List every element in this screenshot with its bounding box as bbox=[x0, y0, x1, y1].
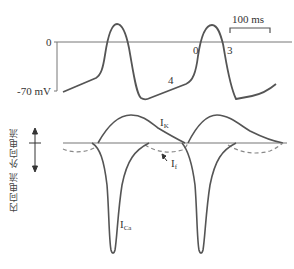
minus-70-mv-label: -70 mV bbox=[17, 86, 51, 97]
if-current-trace bbox=[63, 143, 283, 153]
action-potential-trace bbox=[63, 24, 276, 99]
time-scale-bar bbox=[230, 28, 270, 33]
phase-0-label: 0 bbox=[193, 45, 199, 56]
scale-bar-label: 100 ms bbox=[232, 14, 264, 25]
ica-label: ICa bbox=[120, 219, 131, 234]
if-pointer-arrow bbox=[162, 154, 167, 161]
phase-3-label: 3 bbox=[227, 45, 233, 56]
ik-label: IK bbox=[160, 117, 169, 132]
current-axis-label: 内向电流 外向电流 bbox=[6, 128, 20, 212]
zero-mv-label: 0 bbox=[46, 37, 52, 48]
if-label: If bbox=[171, 158, 177, 173]
diagram-canvas bbox=[0, 0, 294, 269]
ica-current-trace bbox=[92, 143, 236, 253]
pacemaker-action-potential-diagram: 0 -70 mV 100 ms 0 3 4 IK If ICa 内向电流 外向电… bbox=[0, 0, 294, 269]
phase-4-label: 4 bbox=[168, 75, 174, 86]
arrow-down-icon bbox=[33, 166, 38, 172]
current-direction-arrow bbox=[29, 128, 41, 172]
ik-current-trace bbox=[98, 115, 283, 143]
arrow-up-icon bbox=[33, 128, 38, 134]
